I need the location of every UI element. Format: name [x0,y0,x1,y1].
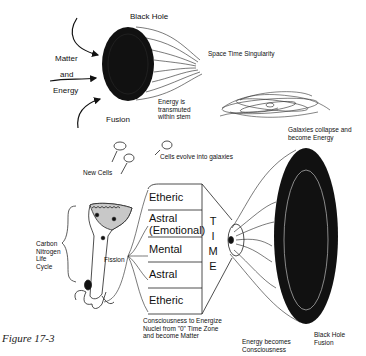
black-hole-fusion-label: Black Hole Fusion [314,331,345,346]
and-label: and [60,70,73,79]
energy-label: Energy [53,86,78,95]
time-letter-m: M [207,244,219,259]
life-cycle-label: Carbon Nitrogen Life Cycle [36,240,61,270]
energy-becomes-label: Energy becomes Consciousness [242,338,291,353]
layer-mental: Mental [149,243,182,255]
layer-etheric-top: Etheric [149,191,183,203]
time-letter-e: E [207,259,219,274]
diagram-canvas: Black Hole Matter and Energy Fusion Spac… [0,0,366,356]
galaxy-icon [220,92,330,118]
time-letter-i: I [207,229,219,244]
time-letter-t: T [207,214,219,229]
fission-label: Fission [104,256,125,264]
new-cells-label: New Cells [83,169,112,177]
fusion-label: Fusion [106,115,130,124]
layer-astral: Astral [149,268,177,280]
figure-caption: Figure 17-3 [2,332,54,344]
matter-label: Matter [55,54,78,63]
layer-etheric-bottom: Etheric [149,294,183,306]
brace-icon [62,206,76,282]
black-hole-label: Black Hole [130,12,168,21]
space-time-singularity-label: Space Time Singularity [208,50,274,58]
layer-astral-emotional: Astral (Emotional) [149,212,205,236]
consciousness-note: Consciousness to Energize Nuclei from "0… [143,317,222,340]
galaxies-collapse-label: Galaxies collapse and become Energy [288,126,352,141]
bottom-black-hole-icon [274,148,338,324]
input-arrows-icon [50,18,100,128]
cells-evolve-label: Cells evolve into galaxies [160,153,233,161]
energy-transmuted-label: Energy is transmuted within stem [158,98,191,121]
